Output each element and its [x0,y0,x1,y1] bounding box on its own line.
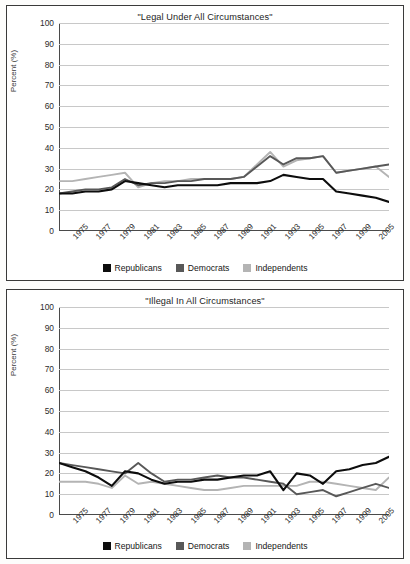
y-axis-tick: 40 [45,427,54,437]
y-axis-tick: 0 [49,226,54,236]
y-axis-tick: 10 [45,489,54,499]
chart-legend: RepublicansDemocratsIndependents [7,541,403,551]
y-axis-tick: 60 [45,385,54,395]
legend-swatch-icon [243,264,251,272]
y-axis-tick: 70 [45,364,54,374]
y-axis-tick: 40 [45,143,54,153]
y-axis-tick: 90 [45,323,54,333]
y-axis-tick: 30 [45,164,54,174]
legend-swatch-icon [103,264,111,272]
legend-item[interactable]: Independents [243,263,307,273]
y-axis-tick: 30 [45,448,54,458]
legend-swatch-icon [176,542,184,550]
y-axis-tick: 20 [45,468,54,478]
series-lines [59,23,389,231]
chart-panel-illegal: "Illegal In All Circumstances" Percent (… [6,289,404,559]
legend-label: Independents [255,541,307,551]
plot-area: 0102030405060708090100197519771979198119… [59,307,389,515]
chart-legend: RepublicansDemocratsIndependents [7,263,403,273]
legend-swatch-icon [103,542,111,550]
legend-item[interactable]: Democrats [176,541,230,551]
legend-label: Democrats [188,263,230,273]
y-axis-tick: 50 [45,122,54,132]
chart-panel-legal: "Legal Under All Circumstances" Percent … [6,5,404,281]
legend-label: Republicans [115,541,162,551]
y-axis-tick: 80 [45,60,54,70]
legend-swatch-icon [176,264,184,272]
legend-swatch-icon [243,542,251,550]
chart-title: "Legal Under All Circumstances" [7,12,403,22]
y-axis-tick: 0 [49,510,54,520]
legend-item[interactable]: Republicans [103,263,162,273]
y-axis-tick: 100 [40,302,54,312]
legend-item[interactable]: Independents [243,541,307,551]
y-axis-label: Percent (%) [9,26,18,116]
y-axis-tick: 10 [45,205,54,215]
y-axis-tick: 100 [40,18,54,28]
legend-label: Independents [255,263,307,273]
y-axis-tick: 90 [45,39,54,49]
legend-item[interactable]: Democrats [176,263,230,273]
y-axis-tick: 60 [45,101,54,111]
series-lines [59,307,389,515]
y-axis-tick: 80 [45,344,54,354]
legend-label: Democrats [188,541,230,551]
y-axis-tick: 50 [45,406,54,416]
legend-label: Republicans [115,263,162,273]
y-axis-label: Percent (%) [9,310,18,400]
figure-page: "Legal Under All Circumstances" Percent … [0,0,410,564]
chart-title: "Illegal In All Circumstances" [7,296,403,306]
plot-area: 0102030405060708090100197519771979198119… [59,23,389,231]
legend-item[interactable]: Republicans [103,541,162,551]
y-axis-tick: 20 [45,184,54,194]
series-line-independents [59,152,389,187]
y-axis-tick: 70 [45,80,54,90]
